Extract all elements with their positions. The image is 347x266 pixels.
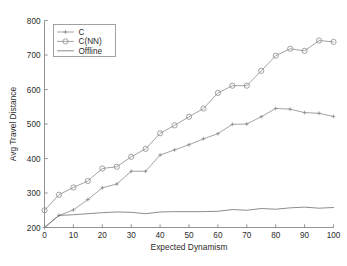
- series-marker-c: [187, 143, 191, 147]
- series-marker-c: [317, 111, 321, 115]
- y-tick-label: 500: [27, 120, 41, 129]
- x-tick-label: 40: [156, 231, 166, 240]
- series-marker-c: [259, 115, 263, 119]
- series-marker-c: [303, 111, 307, 115]
- x-tick-label: 50: [184, 231, 194, 240]
- legend-label-cnn: C(NN): [79, 37, 102, 46]
- series-line-c: [45, 108, 334, 227]
- y-tick-label: 800: [27, 17, 41, 26]
- y-tick-label: 300: [27, 189, 41, 198]
- x-axis-title: Expected Dynamism: [151, 242, 228, 252]
- legend-label-offline: Offline: [79, 47, 103, 56]
- y-axis-title: Avg Travel Distance: [8, 86, 18, 161]
- line-chart: 0102030405060708090100200300400500600700…: [0, 0, 347, 266]
- series-line-cnn: [45, 41, 334, 211]
- x-tick-label: 60: [213, 231, 223, 240]
- y-tick-label: 700: [27, 51, 41, 60]
- x-tick-label: 30: [127, 231, 137, 240]
- x-tick-label: 10: [69, 231, 79, 240]
- y-tick-label: 200: [27, 224, 41, 233]
- x-tick-label: 70: [242, 231, 252, 240]
- x-tick-label: 80: [271, 231, 281, 240]
- x-tick-label: 90: [300, 231, 310, 240]
- series-marker-c: [332, 115, 336, 119]
- x-tick-label: 0: [42, 231, 47, 240]
- y-tick-label: 600: [27, 86, 41, 95]
- chart-figure: 0102030405060708090100200300400500600700…: [0, 0, 347, 266]
- series-marker-c: [173, 148, 177, 152]
- legend-label-c: C: [79, 28, 85, 37]
- series-marker-c: [202, 137, 206, 141]
- y-tick-label: 400: [27, 155, 41, 164]
- x-tick-label: 20: [98, 231, 108, 240]
- series-marker-c: [230, 122, 234, 126]
- series-marker-c: [288, 107, 292, 111]
- series-marker-c: [245, 122, 249, 126]
- x-tick-label: 100: [327, 231, 341, 240]
- series-marker-c: [274, 107, 278, 111]
